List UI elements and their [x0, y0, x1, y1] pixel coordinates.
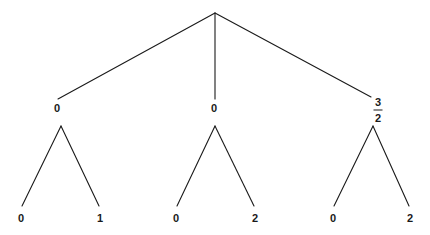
leaf-6-label: 2 [407, 213, 413, 224]
leaf-1-label: 0 [18, 213, 24, 224]
tree-edges-svg [0, 0, 430, 235]
edge-root-right [215, 13, 371, 97]
node-right-denominator: 2 [374, 112, 382, 124]
node-right-fraction-label: 32 [374, 97, 383, 124]
edge-left-leaf1 [22, 126, 61, 206]
node-right-fraction-bar [374, 110, 383, 111]
leaf-4-label: 2 [252, 213, 258, 224]
edge-mid-leaf1 [177, 126, 215, 206]
leaf-5-label: 0 [330, 213, 336, 224]
leaf-3-label: 0 [173, 213, 179, 224]
edge-right-leaf1 [334, 126, 373, 206]
tree-diagram: 0032010202 [0, 0, 430, 235]
edge-root-left [58, 13, 215, 99]
edge-right-leaf2 [373, 126, 409, 206]
edge-mid-leaf2 [215, 126, 254, 206]
edge-left-leaf2 [61, 126, 99, 206]
node-middle-label: 0 [211, 103, 217, 114]
node-right-numerator: 3 [374, 97, 382, 109]
node-left-label: 0 [54, 103, 60, 114]
leaf-2-label: 1 [97, 213, 103, 224]
